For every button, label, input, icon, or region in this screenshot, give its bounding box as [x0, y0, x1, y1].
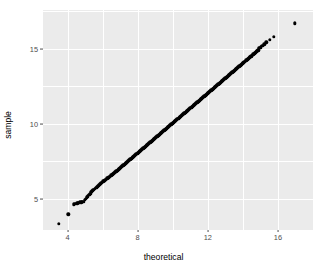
data-point [268, 38, 271, 41]
x-tick-mark [277, 230, 278, 232]
data-point [57, 222, 60, 225]
qq-plot: 51015 481216 theoretical sample [0, 0, 327, 276]
gridline-horizontal [43, 49, 313, 50]
gridline-horizontal [43, 11, 313, 12]
gridline-vertical [243, 10, 244, 230]
y-tick-mark [40, 48, 42, 49]
gridline-vertical [138, 10, 139, 230]
data-point [67, 213, 70, 216]
y-axis-title: sample [3, 95, 13, 155]
gridline-vertical [68, 10, 69, 230]
x-tick-mark [207, 230, 208, 232]
x-tick-label: 12 [204, 233, 212, 242]
data-point [293, 22, 296, 25]
gridline-vertical [278, 10, 279, 230]
gridline-vertical [208, 10, 209, 230]
x-tick-label: 8 [136, 233, 140, 242]
gridline-horizontal [43, 161, 313, 162]
x-axis-title: theoretical [0, 252, 327, 262]
x-tick-mark [137, 230, 138, 232]
gridline-horizontal [43, 124, 313, 125]
x-tick-mark [67, 230, 68, 232]
y-tick-mark [40, 198, 42, 199]
gridline-vertical [103, 10, 104, 230]
x-tick-label: 4 [65, 233, 69, 242]
x-tick-label: 16 [274, 233, 282, 242]
data-point [272, 35, 275, 38]
y-tick-mark [40, 123, 42, 124]
gridline-horizontal [43, 86, 313, 87]
y-tick-label: 15 [30, 44, 38, 53]
y-tick-label: 5 [34, 194, 38, 203]
plot-panel [43, 10, 313, 230]
data-point [264, 40, 267, 43]
y-tick-label: 10 [30, 119, 38, 128]
